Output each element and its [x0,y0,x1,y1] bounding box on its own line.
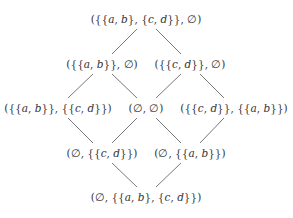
node-empty-cd: (∅, {{c, d}}) [67,148,138,159]
edge-l3b-l4b [156,118,181,143]
edge-top-l2a [112,29,137,54]
node-cd-empty: ({{c, d}}, ∅) [155,59,226,70]
node-empty-empty: (∅, ∅) [129,103,164,114]
edge-l4a-bot [112,163,137,187]
node-ab-cd: ({{a, b}}, {{c, d}}) [4,103,111,114]
edge-l3c-l4b [200,118,224,143]
edge-l4b-bot [156,163,181,187]
node-bottom: (∅, {{a, b}, {c, d}}) [91,192,202,203]
lattice-diagram: ({{a, b}, {c, d}}, ∅) ({{a, b}}, ∅) ({{c… [0,0,293,218]
node-empty-ab: (∅, {{a, b}}) [154,148,225,159]
node-top: ({{a, b}, {c, d}}, ∅) [91,14,202,25]
edge-l2a-l3b [112,74,137,98]
edge-l3b-l4a [112,118,137,143]
edge-l2a-l3a [68,74,93,98]
node-cd-ab: ({{c, d}}, {{a, b}}) [180,103,287,114]
edge-l2b-l3c [200,74,224,98]
edge-l2b-l3b [156,74,181,98]
node-ab-empty: ({{a, b}}, ∅) [66,59,137,70]
edge-top-l2b [156,29,181,54]
edge-l3a-l4a [68,118,93,143]
